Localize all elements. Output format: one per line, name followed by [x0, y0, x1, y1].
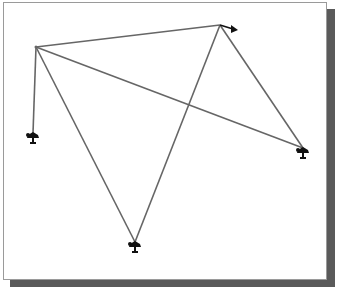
joint-node	[35, 46, 38, 49]
pin-support-icon	[296, 147, 309, 159]
pin-support-icon	[26, 132, 39, 144]
pin-support-icon	[128, 241, 141, 253]
truss-members	[33, 25, 303, 242]
truss-diagram	[0, 0, 339, 292]
member-A-B	[36, 25, 220, 47]
member-A-E	[33, 47, 36, 133]
member-B-C	[220, 25, 303, 148]
member-A-D	[36, 47, 135, 242]
member-A-C	[36, 47, 303, 148]
member-B-D	[135, 25, 220, 242]
